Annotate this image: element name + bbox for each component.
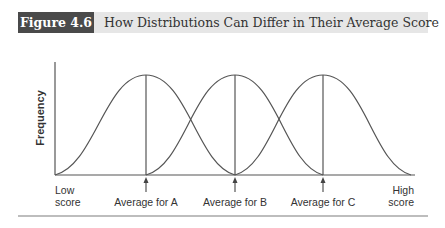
arrow-head-c-icon	[321, 177, 326, 183]
mean-label-b: Average for B	[203, 196, 267, 208]
y-axis-label: Frequency	[34, 89, 46, 146]
low-label-line2: score	[55, 196, 81, 208]
high-score-label: High score	[388, 184, 414, 208]
low-score-label: Low score	[55, 184, 81, 208]
bottom-rule	[18, 215, 428, 217]
mean-label-c: Average for C	[291, 196, 356, 208]
arrow-head-a-icon	[144, 177, 149, 183]
mean-label-a: Average for A	[114, 196, 177, 208]
high-label-line2: score	[388, 196, 414, 208]
high-label-line1: High	[388, 184, 414, 196]
arrow-head-b-icon	[233, 177, 238, 183]
low-label-line1: Low	[55, 184, 81, 196]
